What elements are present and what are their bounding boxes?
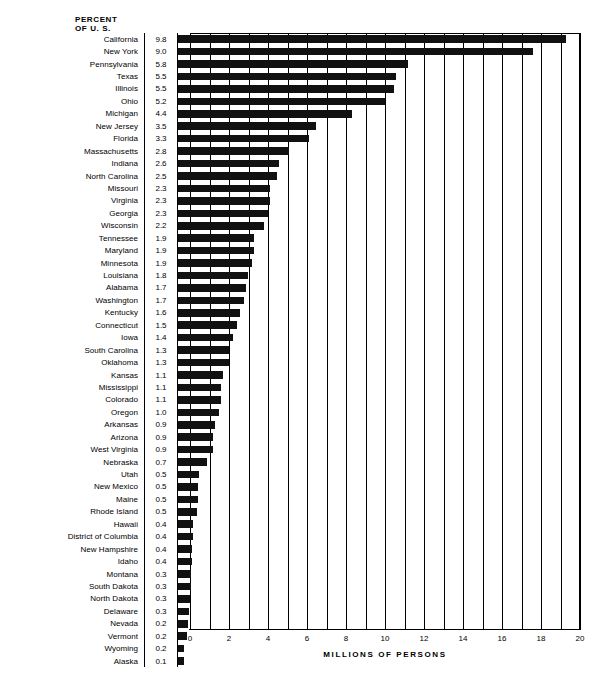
bar-cell <box>178 481 599 493</box>
percent-of-us-value: 0.3 <box>144 568 178 580</box>
percent-of-us-value: 0.9 <box>144 419 178 431</box>
x-axis-title: MILLIONS OF PERSONS <box>190 650 580 659</box>
percent-of-us-value: 1.4 <box>144 332 178 344</box>
percent-of-us-value: 0.7 <box>144 456 178 468</box>
x-tick-label: 10 <box>381 634 390 643</box>
percent-of-us-value: 2.8 <box>144 145 178 157</box>
chart-row: Nebraska0.7 <box>0 456 599 468</box>
percent-of-us-value: 1.1 <box>144 381 178 393</box>
chart-row: Alabama1.7 <box>0 282 599 294</box>
bar <box>178 583 191 591</box>
percent-of-us-value: 0.2 <box>144 630 178 642</box>
bar-cell <box>178 518 599 530</box>
percent-of-us-value: 1.9 <box>144 257 178 269</box>
chart-row: Pennsylvania5.8 <box>0 58 599 70</box>
bar <box>178 545 192 553</box>
percent-of-us-value: 1.1 <box>144 394 178 406</box>
state-label: Ohio <box>0 97 144 106</box>
percent-of-us-value: 5.5 <box>144 70 178 82</box>
bar <box>178 210 268 218</box>
bar <box>178 309 240 317</box>
bar-cell <box>178 45 599 57</box>
bar <box>178 247 254 255</box>
bar <box>178 533 193 541</box>
bar-cell <box>178 356 599 368</box>
percent-of-us-value: 3.5 <box>144 120 178 132</box>
bar <box>178 483 198 491</box>
bar <box>178 433 213 441</box>
bar <box>178 48 533 56</box>
chart-rows: California9.8New York9.0Pennsylvania5.8T… <box>0 33 599 667</box>
chart-row: Tennessee1.9 <box>0 232 599 244</box>
percent-of-us-value: 3.3 <box>144 133 178 145</box>
bar <box>178 632 187 640</box>
state-label: Maryland <box>0 246 144 255</box>
state-label: Virginia <box>0 196 144 205</box>
value-column-header-line1: PERCENT <box>75 15 185 24</box>
percent-of-us-value: 1.9 <box>144 232 178 244</box>
x-tick-label: 0 <box>188 634 192 643</box>
percent-of-us-value: 1.3 <box>144 356 178 368</box>
state-label: Wisconsin <box>0 221 144 230</box>
bar <box>178 272 248 280</box>
bar <box>178 259 252 267</box>
value-column-header: PERCENT OF U. S. <box>75 15 185 33</box>
x-tick-label: 4 <box>266 634 270 643</box>
bar-cell <box>178 33 599 45</box>
bar <box>178 234 254 242</box>
percent-of-us-value: 4.4 <box>144 108 178 120</box>
bar-cell <box>178 70 599 82</box>
bar-cell <box>178 419 599 431</box>
state-label: New Hampshire <box>0 545 144 554</box>
bar <box>178 608 189 616</box>
percent-of-us-value: 5.5 <box>144 83 178 95</box>
state-label: Alabama <box>0 283 144 292</box>
state-label: Texas <box>0 72 144 81</box>
state-label: Alaska <box>0 657 144 666</box>
bar <box>178 595 190 603</box>
percent-of-us-value: 0.2 <box>144 642 178 654</box>
percent-of-us-value: 2.3 <box>144 182 178 194</box>
bar <box>178 421 215 429</box>
state-label: New Mexico <box>0 482 144 491</box>
chart-row: Montana0.3 <box>0 568 599 580</box>
bar-cell <box>178 456 599 468</box>
state-label: Florida <box>0 134 144 143</box>
state-label: South Carolina <box>0 346 144 355</box>
state-label: Idaho <box>0 557 144 566</box>
percent-of-us-value: 0.9 <box>144 443 178 455</box>
percent-of-us-value: 9.0 <box>144 45 178 57</box>
percent-of-us-value: 2.3 <box>144 207 178 219</box>
state-label: Massachusetts <box>0 147 144 156</box>
bar <box>178 396 221 404</box>
percent-of-us-value: 1.5 <box>144 319 178 331</box>
chart-row: Massachusetts2.8 <box>0 145 599 157</box>
bar <box>178 147 289 155</box>
bar-cell <box>178 580 599 592</box>
percent-of-us-value: 5.2 <box>144 95 178 107</box>
chart-row: Delaware0.3 <box>0 605 599 617</box>
x-tick-label: 6 <box>305 634 309 643</box>
chart-row: Utah0.5 <box>0 468 599 480</box>
percent-of-us-value: 0.1 <box>144 655 178 667</box>
bar-cell <box>178 282 599 294</box>
chart-row: Kentucky1.6 <box>0 307 599 319</box>
state-label: West Virginia <box>0 445 144 454</box>
bar <box>178 284 246 292</box>
chart-row: Ohio5.2 <box>0 95 599 107</box>
bar-cell <box>178 332 599 344</box>
bar <box>178 359 229 367</box>
state-label: Rhode Island <box>0 507 144 516</box>
chart-row: Illinois5.5 <box>0 83 599 95</box>
chart-row: Virginia2.3 <box>0 195 599 207</box>
bar-cell <box>178 95 599 107</box>
percent-of-us-value: 1.9 <box>144 244 178 256</box>
bar-cell <box>178 182 599 194</box>
chart-row: Washington1.7 <box>0 294 599 306</box>
bar <box>178 620 188 628</box>
state-label: New York <box>0 47 144 56</box>
bar-cell <box>178 244 599 256</box>
state-label: North Carolina <box>0 172 144 181</box>
bar <box>178 371 223 379</box>
percent-of-us-value: 1.7 <box>144 294 178 306</box>
